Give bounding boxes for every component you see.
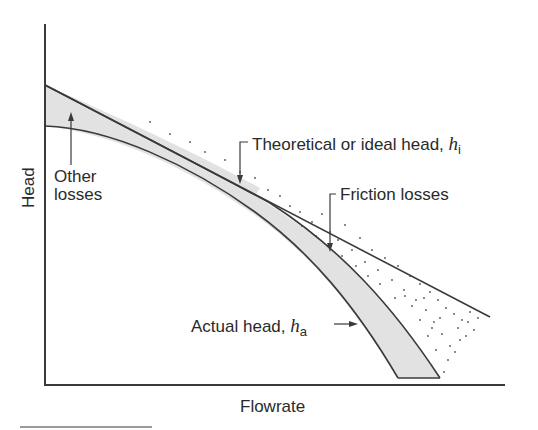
theoretical-head-text: Theoretical or ideal head, [252, 135, 449, 154]
friction-losses-label: Friction losses [340, 186, 449, 203]
y-axis-label: Head [20, 167, 37, 208]
head-flowrate-diagram [0, 0, 538, 430]
actual-head-var: h [290, 315, 300, 336]
other-losses-label: Other losses [54, 168, 102, 204]
friction-losses-text: Friction losses [340, 185, 449, 204]
theoretical-head-sub: i [458, 142, 461, 157]
y-axis-label-text: Head [19, 167, 38, 208]
actual-head-curve [45, 126, 398, 378]
theoretical-head-label: Theoretical or ideal head, hi [252, 134, 461, 153]
friction-leader [330, 194, 336, 246]
x-axis-label-text: Flowrate [240, 397, 305, 416]
actual-head-arrowhead-icon [349, 321, 358, 327]
other-losses-line1: Other [54, 168, 102, 186]
theoretical-head-var: h [449, 133, 459, 154]
actual-head-sub: a [300, 324, 307, 339]
theoretical-leader [240, 142, 248, 178]
actual-head-label: Actual head, ha [191, 316, 307, 335]
x-axis-label: Flowrate [240, 398, 305, 415]
actual-head-text: Actual head, [191, 317, 290, 336]
other-losses-line2: losses [54, 186, 102, 204]
